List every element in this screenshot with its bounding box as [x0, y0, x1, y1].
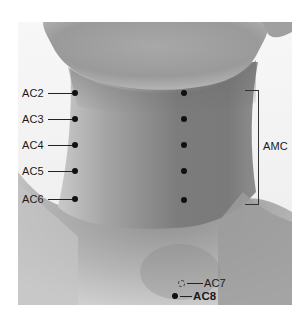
point-marker-dot: [72, 116, 78, 122]
amc-point-dot: [181, 142, 187, 148]
leader-line: [187, 283, 203, 284]
point-label-ac5: AC5: [22, 165, 44, 177]
point-marker-dot: [72, 168, 78, 174]
point-marker-dot: [172, 293, 178, 299]
point-label-ac6: AC6: [22, 193, 44, 205]
amc-point-dot: [181, 90, 187, 96]
point-marker-dot: [72, 90, 78, 96]
point-label-ac2: AC2: [22, 87, 44, 99]
point-marker-dot: [72, 142, 78, 148]
amc-point-dot: [181, 116, 187, 122]
amc-bracket: [245, 90, 259, 205]
amc-point-dot: [181, 197, 187, 203]
amc-point-dot: [181, 168, 187, 174]
point-label-ac7: AC7: [204, 277, 226, 289]
point-label-ac8: AC8: [193, 290, 216, 302]
point-marker-dashed-circle: [178, 280, 185, 287]
point-label-ac3: AC3: [22, 113, 44, 125]
point-label-ac4: AC4: [22, 139, 44, 151]
leader-line: [180, 296, 192, 297]
leader-line: [48, 199, 72, 200]
leader-line: [48, 93, 72, 94]
point-marker-dot: [72, 196, 78, 202]
neck-acupuncture-diagram: AC2 AC3 AC4 AC5 AC6 AMC AC7: [0, 0, 308, 319]
leader-line: [48, 119, 72, 120]
leader-line: [48, 171, 72, 172]
leader-line: [48, 145, 72, 146]
amc-label: AMC: [263, 140, 288, 152]
